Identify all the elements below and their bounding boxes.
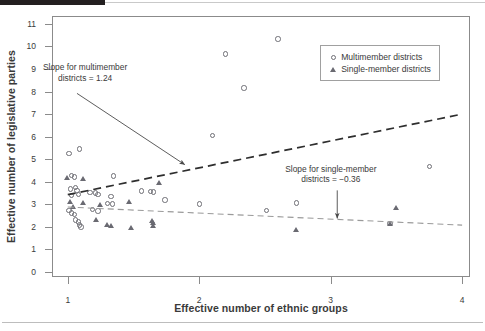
data-point-multimember <box>210 133 215 138</box>
data-point-multimember <box>427 164 432 169</box>
data-point-single-member <box>126 199 132 204</box>
y-tick: 3 <box>45 204 52 205</box>
data-point-multimember <box>111 173 116 178</box>
x-tick: 2 <box>199 277 200 284</box>
legend-entry-multimember: Multimember districts <box>327 51 431 63</box>
filled-triangle-icon <box>327 67 339 72</box>
y-tick: 4 <box>45 182 52 183</box>
y-tick: 7 <box>45 114 52 115</box>
y-tick-label: 0 <box>31 267 36 277</box>
data-point-single-member <box>97 202 103 207</box>
y-tick-label: 3 <box>31 199 36 209</box>
data-point-single-member <box>150 223 156 228</box>
page-header-rule <box>105 2 485 3</box>
data-point-multimember <box>95 192 100 197</box>
x-tick: 4 <box>462 277 463 284</box>
data-point-single-member <box>67 199 73 204</box>
annotation-multimember-slope: Slope for multimember districts = 1.24 <box>43 62 127 83</box>
x-tick: 3 <box>331 277 332 284</box>
y-tick: 8 <box>45 92 52 93</box>
data-point-multimember <box>294 200 299 205</box>
y-tick-label: 4 <box>31 177 36 187</box>
data-point-single-member <box>80 200 86 205</box>
y-tick-label: 5 <box>31 154 36 164</box>
y-tick-label: 1 <box>31 244 36 254</box>
x-tick: 1 <box>68 277 69 284</box>
data-point-multimember <box>108 194 113 199</box>
data-point-multimember <box>241 85 246 90</box>
data-point-multimember <box>275 36 280 41</box>
scatter-plot-figure: 01234567891011 1234 Multimember district… <box>0 5 485 323</box>
data-point-multimember <box>69 193 74 198</box>
data-point-multimember <box>162 197 167 202</box>
data-point-single-member <box>108 223 114 228</box>
data-point-single-member <box>387 221 393 226</box>
annotation-multimember-line2: districts = 1.24 <box>43 73 127 84</box>
y-tick: 11 <box>45 24 52 25</box>
data-point-multimember <box>77 146 82 151</box>
data-point-multimember <box>197 201 202 206</box>
open-circle-icon <box>327 55 339 60</box>
y-tick-label: 11 <box>27 19 36 29</box>
legend-entry-single-member: Single-member districts <box>327 63 431 75</box>
y-axis-title: Effective number of legislative parties <box>4 16 18 277</box>
data-point-single-member <box>128 225 134 230</box>
y-tick-label: 7 <box>31 109 36 119</box>
legend-label-multimember: Multimember districts <box>341 52 422 62</box>
y-tick-label: 2 <box>31 222 36 232</box>
data-point-multimember <box>264 208 269 213</box>
data-point-single-member <box>70 204 76 209</box>
annotation-single-member-line1: Slope for single-member <box>285 164 376 175</box>
annotation-multimember-line1: Slope for multimember <box>43 62 127 73</box>
data-point-multimember <box>72 174 77 179</box>
data-point-multimember <box>76 192 81 197</box>
data-point-multimember <box>66 151 71 156</box>
data-point-multimember <box>139 188 144 193</box>
data-point-multimember <box>95 208 100 213</box>
y-tick: 5 <box>45 159 52 160</box>
y-tick: 10 <box>45 46 52 47</box>
data-point-single-member <box>93 217 99 222</box>
data-point-single-member <box>64 175 70 180</box>
data-point-single-member <box>293 227 299 232</box>
y-tick: 1 <box>45 249 52 250</box>
y-tick: 0 <box>45 272 52 273</box>
y-tick: 6 <box>45 137 52 138</box>
data-point-multimember <box>110 201 115 206</box>
data-point-multimember <box>151 189 156 194</box>
data-point-single-member <box>393 205 399 210</box>
y-tick-label: 10 <box>27 41 36 51</box>
data-point-multimember <box>78 224 83 229</box>
legend-label-single-member: Single-member districts <box>341 64 431 74</box>
y-tick-label: 6 <box>31 132 36 142</box>
y-tick-label: 9 <box>31 64 36 74</box>
y-tick: 2 <box>45 227 52 228</box>
annotation-single-member-line2: districts = −0.36 <box>285 174 376 185</box>
y-tick-label: 8 <box>31 87 36 97</box>
x-axis-title: Effective number of ethnic groups <box>52 302 470 314</box>
data-point-single-member <box>156 180 162 185</box>
data-point-multimember <box>72 212 77 217</box>
data-point-single-member <box>80 176 86 181</box>
annotation-single-member-slope: Slope for single-member districts = −0.3… <box>285 164 376 185</box>
data-point-multimember <box>223 51 228 56</box>
chart-legend: Multimember districts Single-member dist… <box>320 45 440 81</box>
